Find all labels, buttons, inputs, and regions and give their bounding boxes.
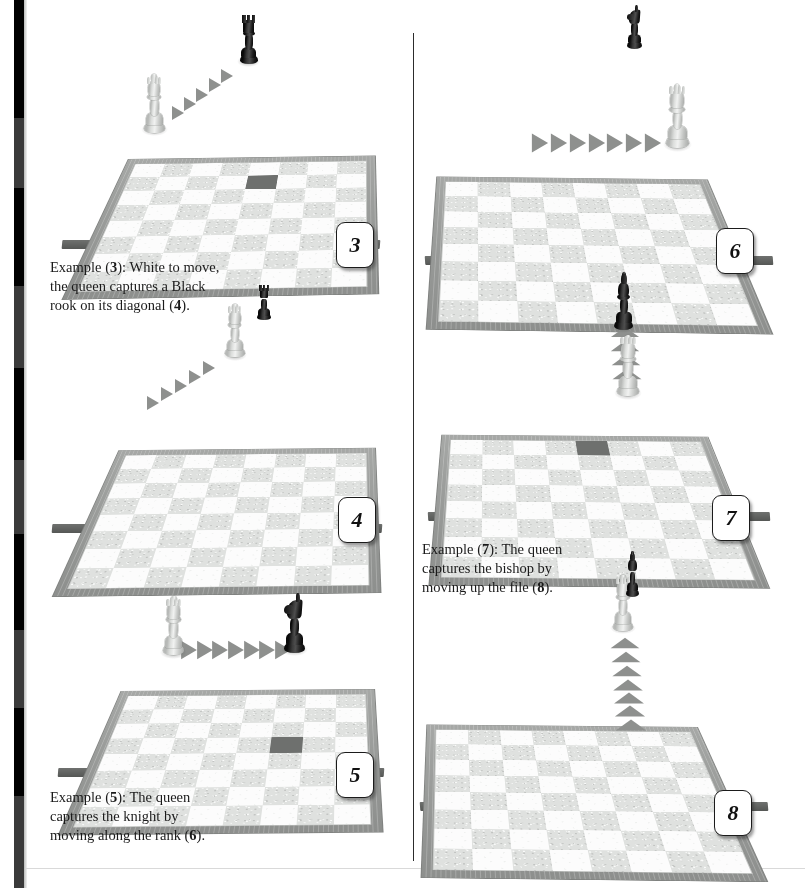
board-square [619,246,660,264]
move-arrow-rank [212,641,228,659]
board-square [580,470,616,486]
piece-skirt [668,125,687,139]
page-edge-shadow [24,0,27,888]
piece-collar [243,31,255,37]
board-square [267,497,302,513]
figure-8: 8 [420,588,768,876]
board-square [163,235,202,253]
board-square [169,219,206,236]
scan-bar-segment [14,534,24,630]
move-arrow-rank [588,133,604,152]
board-square [513,441,546,455]
board-square [650,486,689,503]
board-square [307,162,337,175]
board-square [504,776,541,793]
board-square [211,709,245,723]
board-square [227,530,265,548]
board-square [607,777,647,794]
board-square [175,723,211,738]
piece-shadow [611,321,636,333]
queen-crown [669,86,685,94]
board-square [267,753,302,770]
piece-skirt [146,112,163,125]
board-square [505,793,543,811]
board-square [507,810,546,829]
board-square [304,467,336,482]
move-arrow-rank [181,641,197,659]
board-square [668,184,706,199]
board-square [239,203,273,219]
board-square [587,263,628,282]
piece-shadow [237,56,260,67]
board-square [673,199,712,215]
board-square [512,228,548,245]
piece-shadow [610,622,636,634]
board-square [658,732,696,747]
move-arrow-diagonal [203,361,215,375]
white-queen-piece [162,596,186,655]
board-square [543,811,583,830]
board-square [244,454,277,468]
piece-base [613,620,633,631]
board-square [636,184,673,199]
board-square [146,469,182,484]
chessboard-3 [62,30,380,244]
board-square [478,196,511,211]
board-square [613,470,650,486]
knight-muzzle [627,14,633,20]
board-square [546,228,583,245]
board-square [470,792,507,810]
board-square [271,722,304,737]
board-square [205,482,241,497]
board-square [207,723,242,738]
board-square [271,203,305,219]
board-square [275,695,306,709]
board-square [302,737,335,753]
board-square [478,262,515,281]
board-square [297,250,333,268]
move-arrow-rank [626,133,642,152]
board-square [265,769,301,787]
caption-3-line2: the queen captures a Black [50,278,205,294]
move-arrow-file [612,666,641,677]
caption-3-line1-a: Example ( [50,259,110,275]
board-square [335,737,368,753]
piece-head [670,91,684,108]
piece-base [163,643,184,655]
board-square [435,759,469,775]
board-square [125,770,165,788]
chessboard-5 [58,560,384,772]
piece-base [666,135,689,148]
board-square [272,467,305,482]
board-square [295,268,332,288]
figure-badge-5: 5 [336,752,374,798]
board-square [239,723,273,738]
chessboard-4 [52,318,382,528]
board-square [611,213,649,229]
piece-base [284,641,305,653]
piece-head [286,599,302,619]
black-rook-piece [238,14,259,65]
piece-stem [619,598,627,615]
board-square [297,805,334,825]
move-arrow-file [610,327,638,337]
board-square [664,746,703,762]
board-square [197,235,235,252]
board-square [620,502,659,520]
move-arrow-file [614,693,644,704]
board-square [335,188,366,203]
move-arrow-diagonal [175,379,187,393]
board-square [137,738,175,754]
board-square [469,744,503,759]
board-square [481,519,518,538]
board-square [549,485,585,502]
board-square [445,196,478,211]
board-square [305,454,336,468]
caption-example-7: Example (7): The queen captures the bish… [422,540,637,597]
piece-head [628,10,640,24]
board-square [603,761,642,777]
board-square [143,723,180,738]
piece-skirt [286,632,303,645]
piece-skirt [241,47,256,58]
board-square [511,849,553,871]
